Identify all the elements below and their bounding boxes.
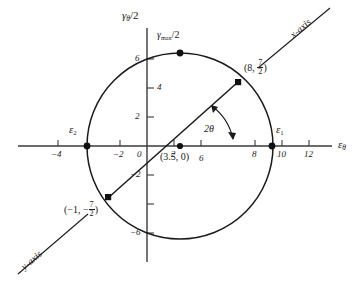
angle-2theta-label: 2θ	[204, 124, 214, 134]
y-tick-label--6: −6	[130, 228, 141, 237]
mohrs-circle-figure: γθ/2 εθ −4 −2 0 2 6 8 10 12 6 4 2 −2 −6 …	[0, 0, 364, 284]
y-axis-label: γθ/2	[122, 10, 139, 23]
gamma-max-label: γmax/2	[157, 30, 179, 41]
center-point-label: (3.5, 0)	[160, 152, 189, 162]
point-gamma-max-marker	[177, 50, 184, 57]
epsilon-1-label: ε1	[276, 124, 284, 137]
x-tick-label--4: −4	[51, 150, 62, 159]
mohrs-circle-canvas	[0, 0, 364, 284]
point-x-face-marker	[235, 79, 241, 85]
angle-arrow-head-lower	[228, 132, 236, 140]
point-y-face-marker	[105, 194, 111, 200]
point-epsilon-2-marker	[84, 143, 91, 150]
point-x-face-label: (8, 72)	[244, 59, 267, 77]
diameter-line	[108, 82, 238, 198]
x-tick-label-12: 12	[304, 150, 313, 159]
x-tick-label--2: −2	[113, 150, 124, 159]
y-tick-label-2: 2	[135, 112, 140, 121]
y-tick-label--2: −2	[130, 170, 141, 179]
x-tick-label-0: 0	[137, 150, 142, 159]
y-tick-label-4: 4	[157, 83, 162, 92]
point-y-face-label: (−1, −72)	[64, 201, 98, 219]
point-epsilon-1-marker	[269, 143, 276, 150]
point-center-marker	[177, 143, 183, 149]
epsilon-2-label: ε2	[69, 124, 77, 137]
x-tick-label-10: 10	[277, 150, 286, 159]
x-tick-label-8: 8	[252, 150, 257, 159]
x-tick-label-6: 6	[199, 154, 204, 163]
y-tick-label-6: 6	[135, 54, 140, 63]
x-axis-label: εθ	[338, 139, 346, 152]
angle-arrow-head-upper	[211, 105, 218, 113]
